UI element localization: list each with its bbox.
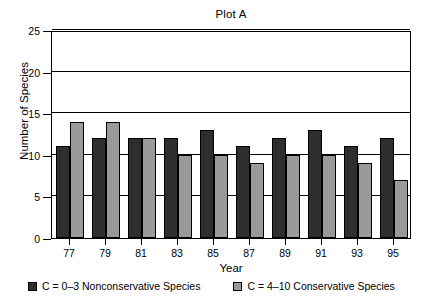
bar-group-83 xyxy=(160,32,196,238)
bar-91-series1[interactable] xyxy=(322,155,336,238)
x-tick-89 xyxy=(285,239,286,245)
y-tick-label-5: 5 xyxy=(0,192,40,202)
bar-group-87 xyxy=(232,32,268,238)
y-tick-0 xyxy=(43,239,51,240)
legend-swatch-icon-dark xyxy=(28,282,37,291)
legend-item-nonconservative[interactable]: C = 0–3 Nonconservative Species xyxy=(28,280,200,292)
bar-83-series0[interactable] xyxy=(164,138,178,238)
plot-area xyxy=(51,31,411,239)
bar-group-91 xyxy=(304,32,340,238)
bar-85-series0[interactable] xyxy=(200,130,214,238)
x-tick-label-87: 87 xyxy=(229,247,269,259)
bar-81-series1[interactable] xyxy=(142,138,156,238)
bar-group-95 xyxy=(376,32,412,238)
bar-83-series1[interactable] xyxy=(178,155,192,238)
y-tick-20 xyxy=(43,73,51,74)
y-tick-25 xyxy=(43,31,51,32)
gridline-25 xyxy=(52,29,410,30)
y-tick-10 xyxy=(43,156,51,157)
bar-group-77 xyxy=(52,32,88,238)
chart-figure: Plot A Number of Species 0510152025 7779… xyxy=(0,0,430,300)
bar-93-series1[interactable] xyxy=(358,163,372,238)
legend-label: C = 4–10 Conservative Species xyxy=(247,280,394,292)
x-tick-79 xyxy=(105,239,106,245)
bar-group-93 xyxy=(340,32,376,238)
bar-87-series0[interactable] xyxy=(236,146,250,238)
x-tick-85 xyxy=(213,239,214,245)
x-tick-93 xyxy=(357,239,358,245)
x-tick-95 xyxy=(393,239,394,245)
bar-87-series1[interactable] xyxy=(250,163,264,238)
x-tick-label-77: 77 xyxy=(49,247,89,259)
x-axis-title: Year xyxy=(51,262,411,275)
bar-group-81 xyxy=(124,32,160,238)
bar-77-series1[interactable] xyxy=(70,122,84,238)
bar-95-series0[interactable] xyxy=(380,138,394,238)
bar-89-series1[interactable] xyxy=(286,155,300,238)
legend-label: C = 0–3 Nonconservative Species xyxy=(42,280,200,292)
bar-81-series0[interactable] xyxy=(128,138,142,238)
bar-group-85 xyxy=(196,32,232,238)
x-tick-label-85: 85 xyxy=(193,247,233,259)
y-tick-label-25: 25 xyxy=(0,26,40,36)
bar-79-series0[interactable] xyxy=(92,138,106,238)
x-tick-label-93: 93 xyxy=(337,247,377,259)
x-tick-81 xyxy=(141,239,142,245)
y-tick-15 xyxy=(43,114,51,115)
bar-79-series1[interactable] xyxy=(106,122,120,238)
y-tick-label-15: 15 xyxy=(0,109,40,119)
y-tick-label-0: 0 xyxy=(0,234,40,244)
y-tick-label-20: 20 xyxy=(0,68,40,78)
bar-93-series0[interactable] xyxy=(344,146,358,238)
bar-91-series0[interactable] xyxy=(308,130,322,238)
x-tick-label-89: 89 xyxy=(265,247,305,259)
bar-77-series0[interactable] xyxy=(56,146,70,238)
x-tick-label-79: 79 xyxy=(85,247,125,259)
bar-89-series0[interactable] xyxy=(272,138,286,238)
x-tick-label-81: 81 xyxy=(121,247,161,259)
legend-item-conservative[interactable]: C = 4–10 Conservative Species xyxy=(233,280,394,292)
legend-swatch-icon-light xyxy=(233,282,242,291)
y-tick-5 xyxy=(43,197,51,198)
bar-group-89 xyxy=(268,32,304,238)
x-tick-label-83: 83 xyxy=(157,247,197,259)
chart-legend: C = 0–3 Nonconservative SpeciesC = 4–10 … xyxy=(28,278,408,294)
x-tick-label-95: 95 xyxy=(373,247,413,259)
x-tick-83 xyxy=(177,239,178,245)
x-tick-87 xyxy=(249,239,250,245)
x-tick-91 xyxy=(321,239,322,245)
x-tick-label-91: 91 xyxy=(301,247,341,259)
x-tick-77 xyxy=(69,239,70,245)
bar-85-series1[interactable] xyxy=(214,155,228,238)
y-tick-label-10: 10 xyxy=(0,151,40,161)
bars-layer xyxy=(52,32,410,238)
bar-95-series1[interactable] xyxy=(394,180,408,238)
chart-title: Plot A xyxy=(51,7,411,21)
bar-group-79 xyxy=(88,32,124,238)
